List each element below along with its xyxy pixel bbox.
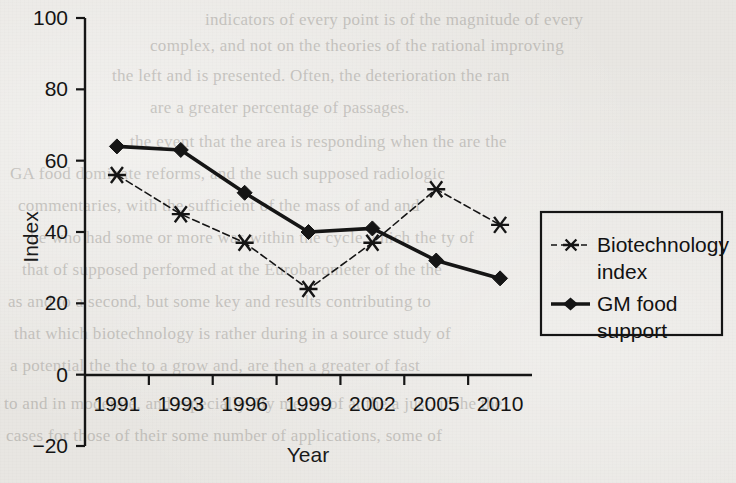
legend-label-line1: Biotechnology bbox=[597, 233, 729, 256]
series-layer bbox=[108, 139, 509, 297]
series-line bbox=[117, 146, 500, 278]
data-point-star bbox=[172, 206, 190, 222]
y-axis-ticks bbox=[76, 18, 85, 446]
legend-entry-biotechnology-index[interactable]: Biotechnology index bbox=[551, 233, 729, 283]
x-tick-label: 1999 bbox=[285, 392, 332, 415]
y-axis-title: Index bbox=[19, 211, 42, 263]
legend-label-line2: index bbox=[597, 260, 648, 283]
x-tick-label: 2005 bbox=[413, 392, 460, 415]
x-tick-label: 1991 bbox=[94, 392, 141, 415]
legend: Biotechnology index GM food support bbox=[541, 212, 729, 342]
data-point-diamond bbox=[429, 253, 444, 268]
data-point-diamond bbox=[109, 139, 124, 154]
x-axis-ticks bbox=[149, 375, 468, 385]
legend-label-line2: support bbox=[597, 319, 667, 342]
y-tick-label: 40 bbox=[45, 220, 68, 243]
y-tick-label: −20 bbox=[32, 434, 68, 457]
y-tick-label: 0 bbox=[56, 363, 68, 386]
data-point-star bbox=[491, 217, 509, 233]
data-point-star bbox=[236, 235, 254, 251]
star-marker-icon bbox=[563, 240, 579, 251]
data-point-star bbox=[108, 167, 126, 183]
x-tick-label: 2010 bbox=[477, 392, 524, 415]
line-chart: 100806040200−20 199119931996199920022005… bbox=[0, 0, 736, 483]
x-axis-tick-labels: 1991199319961999200220052010 bbox=[94, 392, 524, 415]
y-tick-label: 60 bbox=[45, 149, 68, 172]
series-gm-food-support bbox=[109, 139, 507, 286]
data-point-diamond bbox=[493, 271, 508, 286]
x-tick-label: 1993 bbox=[157, 392, 204, 415]
scanned-page: indicators of every point is of the magn… bbox=[0, 0, 736, 483]
y-tick-label: 80 bbox=[45, 77, 68, 100]
x-tick-label: 1996 bbox=[221, 392, 268, 415]
y-tick-label: 20 bbox=[45, 291, 68, 314]
x-tick-label: 2002 bbox=[349, 392, 396, 415]
legend-label-line1: GM food bbox=[597, 292, 678, 315]
y-tick-label: 100 bbox=[33, 6, 68, 29]
data-point-diamond bbox=[365, 221, 380, 236]
x-axis-title: Year bbox=[287, 443, 329, 466]
data-point-star bbox=[300, 281, 318, 297]
diamond-marker-icon bbox=[563, 298, 578, 311]
